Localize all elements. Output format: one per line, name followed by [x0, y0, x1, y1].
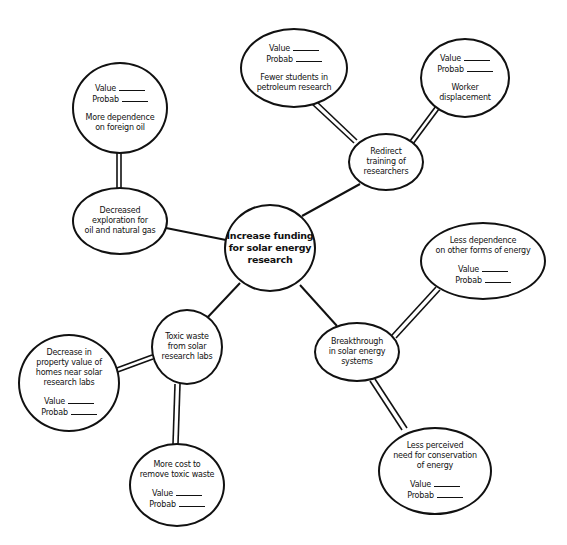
node-property-value: Decrease in property value of homes near… [18, 334, 120, 432]
node-label: Less dependence on other forms of energy [435, 236, 530, 256]
node-label: Increase funding for solar energy resear… [227, 230, 314, 266]
edge-toxic-property [114, 355, 153, 373]
node-breakthrough: Breakthrough in solar energy systems [314, 322, 400, 382]
rating-fields: Value Probab [407, 479, 463, 501]
node-label: Decreased exploration for oil and natura… [85, 206, 156, 236]
value-label: Value [440, 54, 461, 63]
edge-center-breakthrough [300, 285, 337, 326]
edge-exploration-foreign-oil [117, 153, 121, 188]
value-label: Value [152, 489, 173, 498]
rating-fields: Value Probab [41, 396, 97, 418]
edge-breakthrough-less-conservation [370, 379, 407, 430]
node-label: Redirect training of researchers [364, 147, 409, 177]
probab-label: Probab [41, 408, 68, 417]
probab-label: Probab [266, 55, 293, 64]
value-blank[interactable] [293, 43, 319, 51]
edge-center-redirect [302, 184, 360, 216]
probab-label: Probab [407, 491, 434, 500]
probab-label: Probab [149, 500, 176, 509]
node-foreign-oil: Value Probab More dependence on foreign … [72, 62, 168, 154]
rating-fields: Value Probab [92, 83, 148, 105]
node-label: More cost to remove toxic waste [140, 460, 215, 480]
central-decision-node: Increase funding for solar energy resear… [224, 204, 316, 292]
edge-toxic-cost [173, 384, 180, 444]
node-label: Worker displacement [439, 83, 491, 103]
value-blank[interactable] [464, 53, 490, 61]
edge-center-toxic [207, 283, 240, 318]
value-blank[interactable] [434, 479, 460, 487]
edge-redirect-worker [410, 106, 439, 144]
probab-blank[interactable] [467, 64, 493, 72]
node-label: Decrease in property value of homes near… [36, 348, 102, 388]
edge-redirect-fewer-students [312, 101, 357, 143]
probab-blank[interactable] [437, 490, 463, 498]
node-label: Fewer students in petroleum research [257, 73, 332, 93]
probab-label: Probab [455, 276, 482, 285]
node-less-conservation: Less perceived need for conservation of … [378, 427, 492, 515]
node-fewer-students: Value Probab Fewer students in petroleum… [240, 28, 348, 108]
node-worker-displacement: Value Probab Worker displacement [420, 38, 510, 118]
rating-fields: Value Probab [149, 488, 205, 510]
node-label: Breakthrough in solar energy systems [329, 337, 386, 367]
value-blank[interactable] [482, 264, 508, 272]
probab-blank[interactable] [71, 407, 97, 415]
probab-label: Probab [92, 95, 119, 104]
value-label: Value [269, 44, 290, 53]
node-toxic-removal-cost: More cost to remove toxic waste Value Pr… [129, 443, 225, 527]
rating-fields: Value Probab [455, 264, 511, 286]
value-label: Value [44, 397, 65, 406]
node-toxic-waste: Toxic waste from solar research labs [151, 309, 223, 385]
node-less-dependence: Less dependence on other forms of energy… [420, 222, 546, 300]
node-decreased-exploration: Decreased exploration for oil and natura… [72, 187, 168, 255]
edge-center-exploration [166, 228, 226, 240]
value-blank[interactable] [176, 488, 202, 496]
value-blank[interactable] [119, 83, 145, 91]
rating-fields: Value Probab [266, 43, 322, 65]
value-label: Value [410, 480, 431, 489]
node-redirect-training: Redirect training of researchers [348, 133, 424, 191]
value-blank[interactable] [68, 396, 94, 404]
probab-blank[interactable] [485, 275, 511, 283]
edge-breakthrough-less-dependence [392, 287, 440, 338]
value-label: Value [95, 84, 116, 93]
probab-blank[interactable] [122, 94, 148, 102]
probab-label: Probab [437, 65, 464, 74]
node-label: More dependence on foreign oil [86, 113, 155, 133]
rating-fields: Value Probab [437, 53, 493, 75]
node-label: Toxic waste from solar research labs [162, 332, 213, 362]
probab-blank[interactable] [296, 54, 322, 62]
probab-blank[interactable] [179, 499, 205, 507]
value-label: Value [458, 265, 479, 274]
node-label: Less perceived need for conservation of … [393, 441, 477, 471]
